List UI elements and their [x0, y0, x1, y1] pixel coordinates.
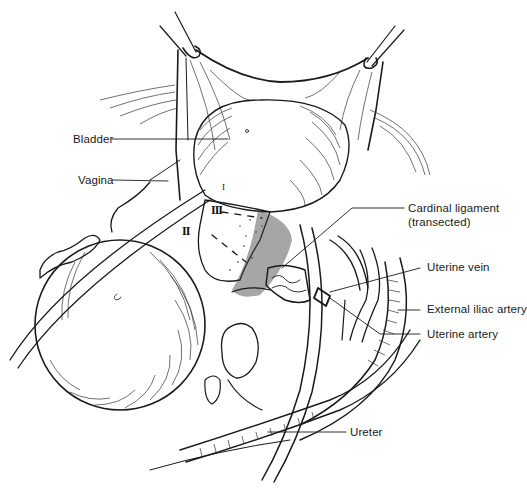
ureter-shape	[150, 330, 420, 470]
label-external-iliac-artery: External iliac artery	[427, 302, 527, 316]
right-adnexa	[205, 323, 262, 410]
vagina-leader	[112, 180, 168, 181]
label-cardinal-ligament-note: (transected)	[408, 215, 471, 229]
incision-marker-1: I	[222, 182, 224, 192]
label-cardinal-ligament: Cardinal ligament	[408, 201, 499, 215]
label-uterine-artery: Uterine artery	[427, 327, 498, 341]
incision-marker-3: III	[211, 203, 222, 218]
pelvic-wall-left	[100, 85, 178, 124]
label-uterine-vein: Uterine vein	[427, 260, 490, 274]
incision-marker-2: II	[182, 224, 189, 239]
sling-hatching	[190, 60, 372, 150]
cardinal-ligament-leader	[282, 208, 404, 268]
label-ureter: Ureter	[350, 425, 383, 439]
parametrial-tissue	[232, 210, 292, 297]
external-iliac-vessels	[300, 248, 406, 440]
label-bladder: Bladder	[73, 132, 113, 146]
label-vagina: Vagina	[78, 173, 114, 187]
bladder-shape	[194, 100, 349, 212]
peritoneal-sling	[196, 50, 368, 82]
left-retractor	[160, 12, 200, 200]
pelvic-wall-right	[370, 110, 430, 175]
